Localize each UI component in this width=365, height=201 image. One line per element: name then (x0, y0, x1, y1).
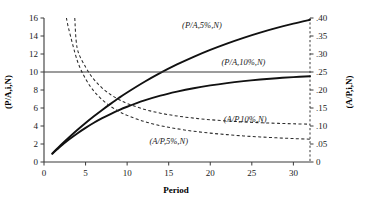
x-tick-label: 20 (206, 168, 216, 178)
y-axis-label-left: (P/A,i,N) (3, 75, 13, 109)
y-axis-label-right: (A/P,i,N) (344, 75, 354, 108)
y-tick-label-right: .10 (316, 121, 328, 131)
axes-group: 02468101214160.05.10.15.20.25.30.35.4005… (29, 13, 328, 178)
curves-group (44, 18, 310, 154)
y-tick-label-right: 0 (316, 157, 321, 167)
y-tick-label-left: 2 (34, 139, 39, 149)
x-axis-label: Period (163, 185, 189, 195)
y-tick-label-left: 14 (29, 31, 39, 41)
y-tick-label-left: 12 (29, 49, 38, 59)
y-tick-label-right: .15 (316, 103, 328, 113)
x-tick-label: 30 (289, 168, 299, 178)
series-a-p-10-n (75, 18, 310, 124)
y-tick-label-left: 8 (34, 85, 39, 95)
y-tick-label-right: .30 (316, 49, 328, 59)
y-tick-label-left: 6 (34, 103, 39, 113)
x-tick-label: 10 (123, 168, 133, 178)
x-tick-label: 5 (83, 168, 88, 178)
series-p-a-5-n (52, 20, 310, 154)
y-tick-label-right: .25 (316, 67, 328, 77)
curve-annotation: (P/A,5%,N) (182, 20, 222, 30)
y-tick-label-left: 0 (34, 157, 39, 167)
y-tick-label-right: .05 (316, 139, 328, 149)
x-tick-label: 0 (42, 168, 47, 178)
curve-annotation: (P/A,10%,N) (222, 57, 266, 67)
x-tick-label: 15 (164, 168, 174, 178)
y-tick-label-right: .40 (316, 13, 328, 23)
y-tick-label-left: 4 (34, 121, 39, 131)
financial-factors-line-chart: 02468101214160.05.10.15.20.25.30.35.4005… (0, 0, 365, 201)
y-tick-label-right: .20 (316, 85, 328, 95)
curve-annotation: (A/P,10%,N) (224, 114, 267, 124)
curve-annotation: (A/P,5%,N) (149, 136, 188, 146)
chart-figure: 02468101214160.05.10.15.20.25.30.35.4005… (0, 0, 365, 201)
y-tick-label-right: .35 (316, 31, 328, 41)
y-tick-label-left: 10 (29, 67, 39, 77)
x-tick-label: 25 (247, 168, 257, 178)
y-tick-label-left: 16 (29, 13, 39, 23)
